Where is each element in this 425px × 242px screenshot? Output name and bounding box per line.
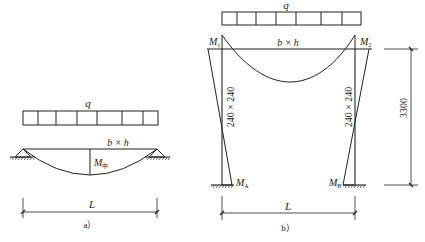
height-dimension-label: 3300: [398, 98, 409, 118]
moment-m1-label: M1: [208, 36, 220, 48]
midspan-moment-label: M中: [93, 157, 108, 170]
section-label: b × h: [107, 137, 129, 148]
span-label: L: [88, 198, 95, 210]
section-label: b × h: [277, 37, 299, 48]
span-label: L: [284, 200, 291, 212]
caption-a: a）: [84, 220, 97, 230]
distributed-load-block: [23, 111, 158, 125]
left-column-section-label: 240 × 240: [225, 87, 236, 128]
fixed-support-right-icon: [343, 185, 366, 188]
fixed-support-left-icon: [211, 185, 234, 188]
moment-ma-label: MA: [235, 177, 249, 189]
moment-m2-label: M2: [359, 36, 371, 48]
moment-mb-label: MB: [328, 177, 341, 189]
distributed-load-block: [222, 12, 361, 25]
structural-diagram: q b × h M中: [0, 0, 425, 242]
figure-a-simply-supported-beam: q b × h M中: [10, 97, 170, 230]
load-label: q: [283, 0, 289, 11]
right-column-section-label: 240 × 240: [343, 87, 354, 128]
figure-b-portal-frame: q M1 M2 b × h 2: [207, 0, 418, 233]
load-label: q: [85, 97, 91, 109]
caption-b: b）: [281, 223, 295, 233]
